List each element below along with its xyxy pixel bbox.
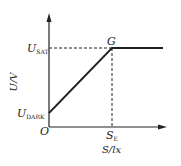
x-axis-label: S/lx (102, 144, 121, 155)
udark-label: UDARK (17, 107, 45, 120)
response-curve (49, 48, 163, 113)
usat-label: USAT (27, 42, 48, 55)
x-axis-arrow-icon (158, 125, 167, 130)
diagram: G USAT UDARK O SE S/lx U/V (0, 0, 181, 166)
se-label: SE (106, 129, 118, 142)
y-axis-arrow-icon (47, 13, 52, 22)
y-axis-label: U/V (8, 71, 19, 92)
point-g-label: G (107, 35, 116, 48)
origin-label: O (40, 125, 49, 138)
